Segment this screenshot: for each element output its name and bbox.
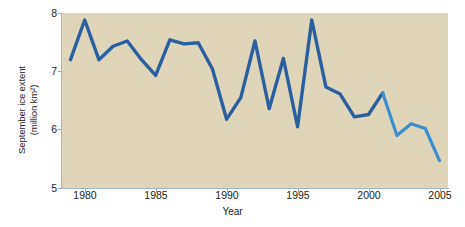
plot-area	[62, 13, 448, 188]
x-tick-label-2005: 2005	[418, 189, 462, 201]
y-tick-label-7: 7	[35, 66, 57, 76]
x-tick-label-1995: 1995	[276, 189, 320, 201]
series-line-late	[383, 93, 440, 161]
y-axis-tick-labels: 8 7 6 5	[30, 0, 57, 227]
y-tick-label-6: 6	[35, 124, 57, 134]
x-tick-label-1980: 1980	[63, 189, 107, 201]
x-tick-label-2000: 2000	[347, 189, 391, 201]
y-axis-title-line1: September ice extent	[16, 66, 27, 154]
x-tick-label-1990: 1990	[205, 189, 249, 201]
data-line-svg	[62, 13, 448, 188]
x-axis-title: Year	[0, 206, 465, 217]
x-tick-label-1985: 1985	[134, 189, 178, 201]
y-tick-label-5: 5	[35, 183, 57, 193]
series-line-early	[71, 20, 383, 127]
y-tick-label-8: 8	[35, 8, 57, 18]
ice-extent-line-chart: September ice extent (million km²) 8 7 6…	[0, 0, 465, 227]
y-axis-line	[61, 13, 62, 189]
